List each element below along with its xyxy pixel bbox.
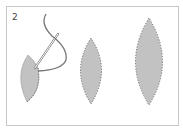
needle-icon [35,34,58,68]
large-leaf [136,18,163,105]
partial-leaf [21,55,39,102]
small-leaf [81,38,102,104]
sewing-diagram [0,0,183,133]
